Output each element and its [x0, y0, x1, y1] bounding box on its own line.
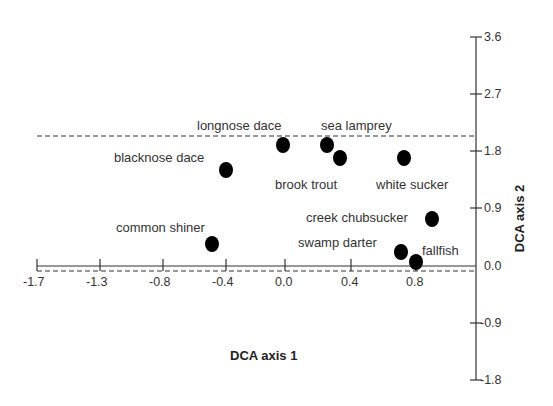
- point-common-shiner: [205, 236, 219, 252]
- y-tick-label: 0.0: [484, 260, 501, 273]
- x-tick-label: -1.3: [86, 276, 108, 289]
- label-white-sucker: white sucker: [376, 178, 448, 191]
- chart-plot-area: [0, 0, 553, 406]
- x-axis-title: DCA axis 1: [230, 349, 297, 362]
- x-tick-label: 0.0: [275, 276, 292, 289]
- label-common-shiner: common shiner: [116, 221, 205, 234]
- point-blacknose-dace: [219, 162, 233, 178]
- point-white-sucker: [397, 150, 411, 166]
- y-tick-label: -0.9: [480, 317, 502, 330]
- dca-scatter-chart: longnose dace sea lamprey blacknose dace…: [0, 0, 553, 406]
- point-brook-trout: [333, 150, 347, 166]
- x-axis-ticks: [37, 259, 416, 271]
- label-fallfish: fallfish: [422, 244, 459, 257]
- x-tick-label: 0.8: [406, 276, 423, 289]
- x-tick-label: -0.8: [149, 276, 171, 289]
- y-tick-label: 0.9: [484, 202, 501, 215]
- point-longnose-dace: [276, 137, 290, 153]
- point-creek-chubsucker: [425, 211, 439, 227]
- y-axis-title: DCA axis 2: [513, 185, 526, 252]
- y-tick-label: 2.7: [484, 88, 501, 101]
- label-swamp-darter: swamp darter: [298, 236, 377, 249]
- label-sea-lamprey: sea lamprey: [321, 119, 392, 132]
- label-brook-trout: brook trout: [275, 178, 337, 191]
- label-blacknose-dace: blacknose dace: [114, 151, 204, 164]
- x-tick-label: -1.7: [23, 276, 45, 289]
- label-creek-chubsucker: creek chubsucker: [306, 211, 408, 224]
- point-swamp-darter: [394, 244, 408, 260]
- point-fallfish: [409, 254, 423, 270]
- label-longnose-dace: longnose dace: [197, 119, 282, 132]
- x-tick-label: -0.4: [212, 276, 234, 289]
- y-tick-label: 1.8: [484, 145, 501, 158]
- x-tick-label: 0.4: [341, 276, 358, 289]
- point-sea-lamprey: [320, 137, 334, 153]
- y-tick-label: 3.6: [484, 31, 501, 44]
- y-tick-label: -1.8: [480, 374, 502, 387]
